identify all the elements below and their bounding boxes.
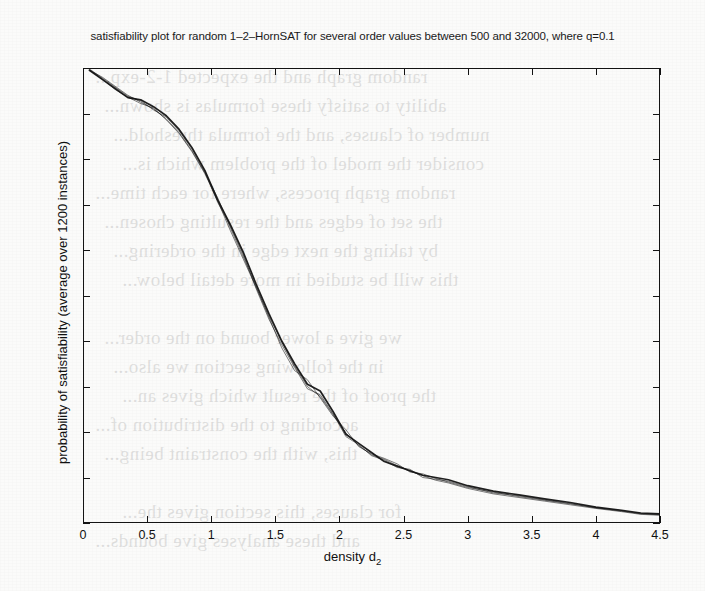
y-axis-tick-mark-right: [653, 68, 660, 69]
x-axis-tick-label: 1.5: [240, 528, 310, 542]
curve-order-32000: [89, 70, 660, 515]
curve-order-2000: [89, 70, 660, 514]
x-axis-tick-mark: [596, 516, 597, 523]
x-axis-tick-mark: [83, 516, 84, 523]
y-axis-tick-mark-right: [653, 296, 660, 297]
y-axis-tick-mark: [83, 68, 90, 69]
x-axis-tick-mark-top: [404, 68, 405, 75]
x-axis-tick-mark: [211, 516, 212, 523]
curve-order-8000: [89, 69, 660, 515]
x-axis-tick-mark-top: [211, 68, 212, 75]
y-axis-tick-mark: [83, 296, 90, 297]
plot-curves: [83, 68, 660, 523]
y-axis-tick-mark-right: [653, 523, 660, 524]
x-axis-label-subscript: 2: [376, 556, 381, 567]
x-axis-tick-mark-top: [468, 68, 469, 75]
y-axis-tick-mark-right: [653, 478, 660, 479]
x-axis-tick-label: 2.5: [369, 528, 439, 542]
x-axis-tick-label: 0: [48, 528, 118, 542]
x-axis-tick-label: 4.5: [625, 528, 695, 542]
y-axis-tick-mark: [83, 205, 90, 206]
x-axis-tick-mark: [147, 516, 148, 523]
x-axis-tick-label: 4: [561, 528, 631, 542]
chart-title-text: satisfiability plot for random 1–2–HornS…: [90, 30, 614, 42]
y-axis-tick-mark-right: [653, 432, 660, 433]
y-axis-tick-mark: [83, 341, 90, 342]
y-axis-tick-mark: [83, 478, 90, 479]
y-axis-tick-mark-right: [653, 114, 660, 115]
x-axis-tick-label: 3: [433, 528, 503, 542]
x-axis-tick-mark-top: [532, 68, 533, 75]
x-axis-tick-mark-top: [83, 68, 84, 75]
y-axis-label: probability of satisfiability (average o…: [55, 93, 70, 513]
x-axis-tick-mark-top: [660, 68, 661, 75]
y-axis-tick-mark: [83, 523, 90, 524]
x-axis-tick-mark-top: [339, 68, 340, 75]
y-axis-tick-mark-right: [653, 159, 660, 160]
y-axis-tick-mark: [83, 159, 90, 160]
x-axis-label: density d2: [0, 549, 705, 567]
x-axis-tick-mark: [532, 516, 533, 523]
satisfiability-chart-figure: satisfiability plot for random 1–2–HornS…: [0, 0, 705, 591]
x-axis-tick-label: 0.5: [112, 528, 182, 542]
x-axis-tick-label: 1: [176, 528, 246, 542]
x-axis-tick-mark: [468, 516, 469, 523]
chart-title: satisfiability plot for random 1–2–HornS…: [0, 30, 705, 42]
y-axis-tick-mark: [83, 387, 90, 388]
x-axis-tick-label: 3.5: [497, 528, 567, 542]
x-axis-tick-label: 2: [304, 528, 374, 542]
x-axis-tick-mark-top: [596, 68, 597, 75]
y-axis-tick-mark: [83, 432, 90, 433]
x-axis-label-text: density d: [324, 549, 376, 564]
x-axis-tick-mark-top: [147, 68, 148, 75]
x-axis-tick-mark-top: [275, 68, 276, 75]
y-axis-tick-mark: [83, 250, 90, 251]
x-axis-tick-mark: [339, 516, 340, 523]
y-axis-tick-mark-right: [653, 250, 660, 251]
y-axis-tick-mark-right: [653, 387, 660, 388]
x-axis-tick-mark: [660, 516, 661, 523]
x-axis-tick-mark: [275, 516, 276, 523]
curve-order-500: [89, 70, 660, 514]
x-axis-tick-mark: [404, 516, 405, 523]
y-axis-tick-mark: [83, 114, 90, 115]
y-axis-tick-mark-right: [653, 341, 660, 342]
y-axis-tick-mark-right: [653, 205, 660, 206]
